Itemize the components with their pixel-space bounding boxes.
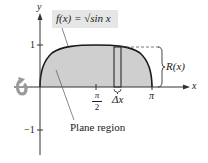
pi-half-denominator: 2 <box>95 102 100 112</box>
function-leader-line <box>62 28 68 46</box>
y-axis-label: y <box>37 2 41 12</box>
x-tick-label-pi-half: π 2 <box>92 91 102 112</box>
plane-region-label: Plane region <box>70 122 125 133</box>
function-label: f(x) = √sin x <box>56 13 111 24</box>
y-tick-label-neg1: −1 <box>24 125 35 135</box>
radius-brace <box>158 47 165 87</box>
pi-half-numerator: π <box>95 90 100 100</box>
plane-region <box>40 45 152 87</box>
x-axis-arrow-icon <box>183 85 190 90</box>
y-tick-label-1: 1 <box>30 40 35 50</box>
rotation-arrow-icon <box>18 77 27 94</box>
x-axis-label: x <box>192 81 196 91</box>
representative-strip <box>114 47 121 87</box>
delta-x-label: Δx <box>112 94 123 105</box>
y-axis-arrow-icon <box>38 13 43 20</box>
radius-label: R(x) <box>166 61 185 72</box>
x-tick-label-pi: π <box>149 91 154 101</box>
